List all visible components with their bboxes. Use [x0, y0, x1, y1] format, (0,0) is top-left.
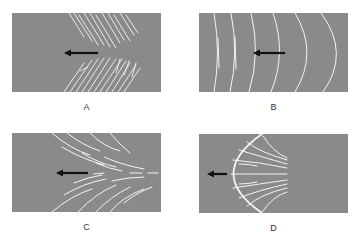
panel-b: [199, 13, 348, 92]
panel-a: [12, 13, 161, 92]
panel-a-diagram: [12, 13, 161, 92]
panel-d: [199, 134, 348, 213]
panel-d-label: D: [199, 223, 348, 233]
panel-c-diagram: [12, 133, 161, 212]
panel-d-diagram: [199, 134, 348, 213]
panel-c: [12, 133, 161, 212]
panel-c-label: C: [12, 222, 161, 232]
panel-a-label: A: [12, 102, 161, 112]
panel-b-diagram: [199, 13, 348, 92]
panel-b-label: B: [199, 102, 348, 112]
